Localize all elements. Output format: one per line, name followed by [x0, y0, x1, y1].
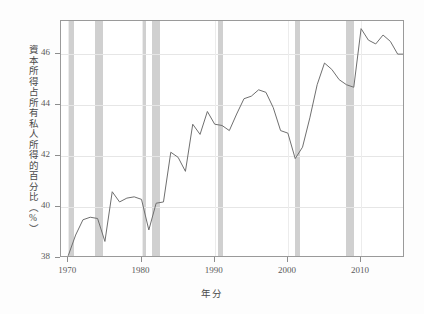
- y-tick-label: 40: [28, 200, 50, 210]
- y-tick-mark: [55, 104, 60, 105]
- x-tick-mark: [360, 257, 361, 262]
- y-tick-mark: [55, 53, 60, 54]
- data-series-svg: [61, 21, 404, 257]
- y-tick-label: 46: [28, 47, 50, 57]
- y-tick-mark: [55, 257, 60, 258]
- y-tick-label: 44: [28, 98, 50, 108]
- x-tick-mark: [141, 257, 142, 262]
- x-axis-title: 年分: [0, 286, 424, 300]
- y-tick-mark: [55, 155, 60, 156]
- x-tick-mark: [214, 257, 215, 262]
- y-tick-label: 38: [28, 251, 50, 261]
- x-tick-label: 2000: [267, 265, 307, 275]
- x-tick-label: 1980: [121, 265, 161, 275]
- chart-figure: 資本所得占所有私人所得的百分比（%） 3840424446 1970198019…: [0, 0, 424, 314]
- y-tick-label: 42: [28, 149, 50, 159]
- x-tick-mark: [67, 257, 68, 262]
- y-axis-title: 資本所得占所有私人所得的百分比（%）: [14, 26, 38, 252]
- series-line-capital-share: [68, 29, 404, 256]
- x-tick-label: 1990: [194, 265, 234, 275]
- x-tick-mark: [287, 257, 288, 262]
- plot-area: [60, 20, 404, 257]
- y-tick-mark: [55, 206, 60, 207]
- x-tick-label: 2010: [340, 265, 380, 275]
- x-tick-label: 1970: [47, 265, 87, 275]
